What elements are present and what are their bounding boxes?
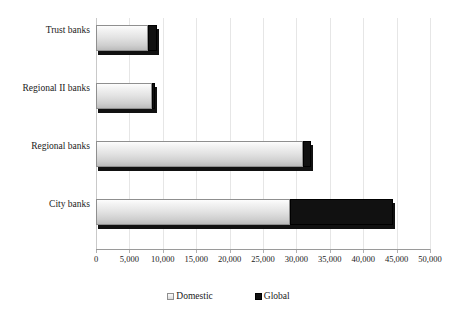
bar-chart: Trust banks Regional II banks Regional b…	[0, 0, 457, 318]
x-tick-label-20000: 20,000	[218, 253, 241, 265]
bar-group	[96, 141, 311, 167]
x-tick-label-10000: 10,000	[151, 253, 174, 265]
x-tick-label-45000: 45,000	[385, 253, 408, 265]
legend-swatch-global-icon	[255, 293, 262, 300]
bar-group	[96, 25, 157, 51]
bar-segment-global	[290, 199, 394, 225]
legend-entry-global: Global	[255, 291, 290, 302]
x-tick-label-35000: 35,000	[318, 253, 341, 265]
bar-segment-domestic	[96, 25, 148, 51]
x-tick-label-50000: 50,000	[418, 253, 441, 265]
x-axis-tick-labels: 05,00010,00015,00020,00025,00030,00035,0…	[0, 253, 457, 267]
legend-entry-domestic: Domestic	[167, 291, 212, 302]
bar-segment-global	[148, 25, 157, 51]
chart-legend: Domestic Global	[0, 288, 457, 304]
x-tick-label-5000: 5,000	[120, 253, 139, 265]
bar-segment-domestic	[96, 83, 152, 109]
bar-group	[96, 83, 155, 109]
plot-area	[96, 18, 430, 249]
x-tick-label-15000: 15,000	[185, 253, 208, 265]
x-tick-label-0: 0	[94, 253, 98, 265]
bar-segment-domestic	[96, 199, 290, 225]
category-axis: Trust banks Regional II banks Regional b…	[0, 18, 90, 249]
legend-label-domestic: Domestic	[176, 291, 212, 302]
legend-swatch-domestic-icon	[167, 293, 174, 300]
x-tick-label-30000: 30,000	[285, 253, 308, 265]
bar-segment-domestic	[96, 141, 303, 167]
legend-label-global: Global	[264, 291, 290, 302]
category-label-city-banks: City banks	[2, 199, 90, 210]
x-tick-label-40000: 40,000	[352, 253, 375, 265]
category-label-regional-ii-banks: Regional II banks	[2, 83, 90, 94]
x-axis-line	[96, 249, 430, 250]
bar-segment-global	[152, 83, 155, 109]
gridline-45000	[397, 18, 398, 249]
bar-segment-global	[303, 141, 311, 167]
category-label-trust-banks: Trust banks	[2, 25, 90, 36]
gridline-50000	[430, 18, 431, 249]
x-tick-label-25000: 25,000	[251, 253, 274, 265]
bar-group	[96, 199, 393, 225]
category-label-regional-banks: Regional banks	[2, 141, 90, 152]
